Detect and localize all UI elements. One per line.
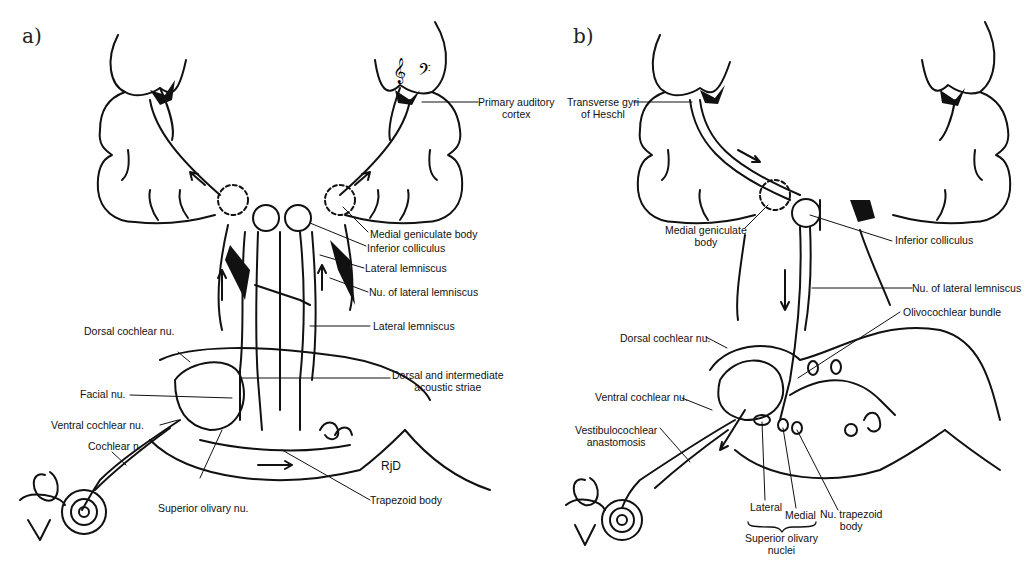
label-line: of Heschl bbox=[567, 108, 639, 120]
label-line: cortex bbox=[478, 108, 554, 120]
label-medial-geniculate-body: Medial geniculate body bbox=[665, 224, 747, 248]
leader-lines bbox=[112, 102, 912, 510]
label-medial-geniculate-body: Medial geniculate body bbox=[370, 228, 477, 240]
label-vestibulocochlear-anastomosis: Vestibulocochlear anastomosis bbox=[575, 424, 657, 448]
label-olivocochlear-bundle: Olivocochlear bundle bbox=[903, 306, 1001, 318]
label-inferior-colliculus: Inferior colliculus bbox=[895, 234, 973, 246]
label-primary-auditory-cortex: Primary auditory cortex bbox=[478, 96, 554, 120]
label-line: Medial geniculate bbox=[665, 224, 747, 236]
label-dorsal-cochlear-nu: Dorsal cochlear nu. bbox=[620, 332, 710, 344]
label-nu-lateral-lemniscus: Nu. of lateral lemniscus bbox=[369, 286, 478, 298]
label-trapezoid-body: Trapezoid body bbox=[370, 494, 442, 506]
label-ventral-cochlear-nu: Ventral cochlear nu. bbox=[51, 419, 144, 431]
label-line: Primary auditory bbox=[478, 96, 554, 108]
panel-b-label: b) bbox=[573, 24, 594, 48]
label-line: acoustic striae bbox=[392, 381, 503, 393]
label-line: body bbox=[665, 236, 747, 248]
panel-a-drawing bbox=[20, 22, 490, 540]
auditory-pathway-line-art bbox=[0, 0, 1031, 566]
label-transverse-gyri-of-heschl: Transverse gyri of Heschl bbox=[567, 96, 639, 120]
label-line: anastomosis bbox=[575, 436, 657, 448]
label-line: Superior olivary bbox=[745, 532, 818, 544]
label-nu-lateral-lemniscus: Nu. of lateral lemniscus bbox=[912, 282, 1021, 294]
label-inferior-colliculus: Inferior colliculus bbox=[367, 242, 445, 254]
label-lateral: Lateral bbox=[750, 501, 782, 513]
label-dorsal-cochlear-nu: Dorsal cochlear nu. bbox=[84, 325, 174, 337]
label-cochlear-n: Cochlear n. bbox=[88, 440, 142, 452]
label-medial: Medial bbox=[785, 509, 816, 521]
label-lateral-lemniscus-lower: Lateral lemniscus bbox=[373, 320, 455, 332]
label-line: Dorsal and intermediate bbox=[392, 369, 503, 381]
label-superior-olivary-nu: Superior olivary nu. bbox=[158, 502, 248, 514]
label-superior-olivary-nuclei: Superior olivary nuclei bbox=[745, 532, 818, 556]
label-facial-nu: Facial nu. bbox=[80, 388, 126, 400]
label-nu-trapezoid-body: Nu. trapezoid body bbox=[820, 508, 882, 532]
label-line: Transverse gyri bbox=[567, 96, 639, 108]
label-line: body bbox=[820, 520, 882, 532]
label-line: nuclei bbox=[745, 544, 818, 556]
artist-signature: RjD bbox=[381, 460, 401, 472]
label-line: Nu. trapezoid bbox=[820, 508, 882, 520]
bass-clef-icon: 𝄢 bbox=[418, 60, 431, 84]
label-lateral-lemniscus-upper: Lateral lemniscus bbox=[365, 262, 447, 274]
label-ventral-cochlear-nu: Ventral cochlear nu. bbox=[595, 391, 688, 403]
panel-a-label: a) bbox=[22, 24, 42, 48]
label-dorsal-intermediate-acoustic-striae: Dorsal and intermediate acoustic striae bbox=[392, 369, 503, 393]
treble-clef-icon: 𝄞 bbox=[393, 58, 406, 83]
label-line: Vestibulocochlear bbox=[575, 424, 657, 436]
